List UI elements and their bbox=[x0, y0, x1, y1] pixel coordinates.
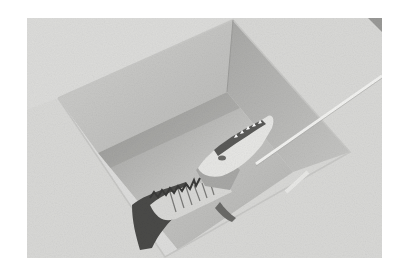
photo-canvas bbox=[27, 18, 382, 258]
photograph bbox=[27, 18, 382, 258]
